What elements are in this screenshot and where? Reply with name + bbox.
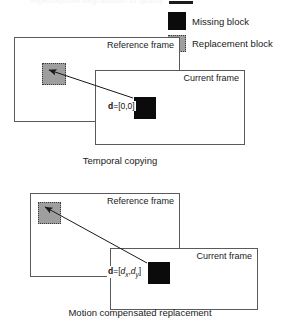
diagram-1-caption: Temporal copying (60, 155, 180, 166)
cropped-header-ghost-text: imperceptible degradation of quality (30, 0, 164, 5)
diagram-1-missing-block (134, 97, 156, 119)
legend-label-missing-block: Missing block (192, 16, 249, 27)
diagram-1-current-frame-label: Current frame (183, 73, 239, 83)
diagram-2-vector-label: d=[dx,dy] (107, 266, 142, 278)
cropped-header-mark (169, 1, 193, 4)
diagram-2-caption: Motion compensated replacement (50, 307, 230, 318)
diagram-1-reference-frame-label: Reference frame (107, 40, 174, 50)
diagram-1-vector-label: d=[0,0] (107, 101, 136, 111)
filled-black-square-icon (168, 12, 186, 30)
diagram-2-replacement-block (38, 202, 61, 224)
diagram-2-reference-frame-label: Reference frame (107, 196, 174, 206)
legend-item-replacement-block: Replacement block (168, 35, 273, 52)
figure-canvas: imperceptible degradation of quality Mis… (0, 0, 285, 328)
cropped-header-text: imperceptible degradation of quality (30, 0, 260, 5)
legend-label-replacement-block: Replacement block (192, 38, 273, 49)
legend-item-missing-block: Missing block (168, 12, 249, 30)
diagram-2-current-frame-label: Current frame (196, 251, 252, 261)
diagram-1-replacement-block (42, 63, 66, 85)
diagram-2-current-frame: Current frame (110, 248, 258, 310)
diagram-2-missing-block (148, 262, 170, 284)
